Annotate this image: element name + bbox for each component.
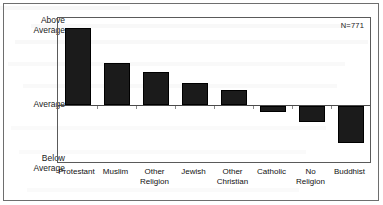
- bar: [104, 63, 130, 105]
- sample-size-annotation: N=771: [341, 21, 364, 30]
- y-axis-label-below-average: Below Average: [5, 154, 65, 173]
- x-axis-label-no-religion: No Religion: [291, 167, 330, 186]
- x-axis-label-other-christian: Other Christian: [213, 167, 252, 186]
- x-axis-tick: [331, 106, 332, 109]
- x-axis-tick: [292, 106, 293, 109]
- x-axis-labels: ProtestantMuslimOther ReligionJewishOthe…: [57, 167, 371, 197]
- bar: [221, 90, 247, 105]
- plot-area: N=771: [57, 17, 371, 163]
- x-axis-tick: [175, 106, 176, 109]
- y-axis-label-above-average: Above Average: [5, 16, 65, 35]
- x-axis-tick: [97, 106, 98, 109]
- x-axis-tick: [214, 106, 215, 109]
- bar: [65, 28, 91, 105]
- x-axis-label-other-religion: Other Religion: [135, 167, 174, 186]
- bar: [182, 83, 208, 105]
- x-axis-label-protestant: Protestant: [57, 167, 96, 177]
- bar: [299, 106, 325, 122]
- x-axis-label-jewish: Jewish: [174, 167, 213, 177]
- x-axis-tick: [253, 106, 254, 109]
- bar: [338, 106, 364, 143]
- bar-chart-figure: Above Average Average Below Average N=77…: [0, 0, 383, 205]
- x-axis-label-buddhist: Buddhist: [330, 167, 369, 177]
- y-axis-label-average: Average: [5, 100, 65, 110]
- x-axis-tick: [136, 106, 137, 109]
- bar: [260, 106, 286, 112]
- x-axis-label-catholic: Catholic: [252, 167, 291, 177]
- bar: [143, 72, 169, 105]
- x-axis-label-muslim: Muslim: [96, 167, 135, 177]
